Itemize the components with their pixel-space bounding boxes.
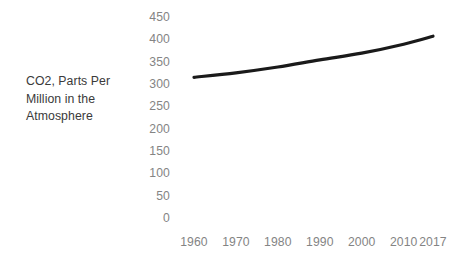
co2-line-chart: CO2, Parts Per Million in the Atmosphere… bbox=[0, 0, 461, 266]
plot-area bbox=[0, 0, 461, 266]
co2-series-line bbox=[194, 36, 433, 77]
series-svg bbox=[0, 0, 461, 266]
